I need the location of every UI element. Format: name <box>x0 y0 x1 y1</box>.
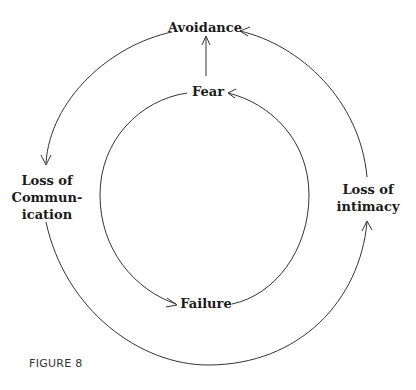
arrowhead-left-icon <box>228 89 236 98</box>
node-loss-of-intimacy-line-1: Loss of <box>332 181 404 198</box>
node-loss-of-communication-line-2: Commun- <box>10 189 84 206</box>
arrow-failure-to-fear <box>228 93 309 304</box>
node-loss-of-communication: Loss of Commun- ication <box>10 172 84 223</box>
figure-caption: FIGURE 8 <box>29 357 83 370</box>
arrow-loss-of-communication-to-loss-of-intimacy <box>46 222 367 365</box>
node-fear: Fear <box>188 83 228 100</box>
node-failure: Failure <box>180 295 232 312</box>
node-loss-of-intimacy: Loss of intimacy <box>332 181 404 215</box>
node-loss-of-intimacy-line-2: intimacy <box>332 198 404 215</box>
diagram-canvas: Avoidance Fear Failure Loss of Commun- i… <box>0 0 416 390</box>
arrow-avoidance-to-loss-of-communication <box>46 32 172 163</box>
arrow-loss-of-intimacy-to-avoidance <box>240 31 367 177</box>
node-avoidance: Avoidance <box>168 19 242 36</box>
node-loss-of-communication-line-3: ication <box>10 206 84 223</box>
node-loss-of-communication-line-1: Loss of <box>10 172 84 189</box>
arrow-fear-to-failure <box>100 93 187 304</box>
